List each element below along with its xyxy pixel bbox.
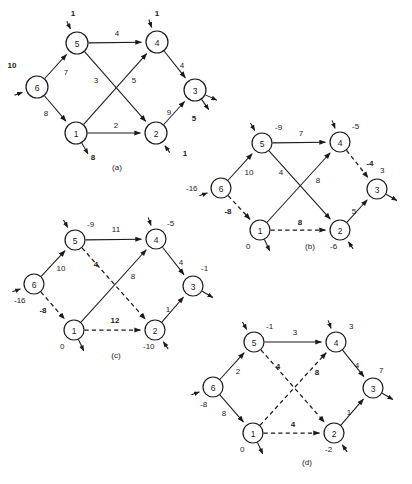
node-3[interactable]: 3 (363, 378, 383, 398)
node-value-6: -8 (200, 400, 208, 409)
edge-5-to-4 (88, 42, 141, 43)
external-flow-value-node-6: 10 (8, 61, 17, 70)
node-label-2: 2 (153, 326, 158, 336)
edge-label-6-5: 7 (64, 68, 69, 77)
edge-label-6-5: 10 (57, 264, 66, 273)
node-5[interactable]: 5 (244, 332, 264, 352)
external-out-flow-node-3 (386, 194, 397, 200)
node-label-5: 5 (75, 39, 80, 49)
node-label-6: 6 (211, 383, 216, 393)
node-2[interactable]: 2 (330, 220, 350, 240)
node-5[interactable]: 5 (66, 32, 88, 54)
edge-label-5-4: 11 (112, 225, 121, 234)
node-value-1: 0 (240, 445, 245, 454)
external-in-flow-node-6 (199, 193, 207, 196)
edge-label-1-2: 8 (298, 218, 303, 227)
node-label-4: 4 (155, 38, 160, 48)
edge-1-to-4 (84, 54, 147, 125)
edge-label-6-1: 8 (44, 109, 49, 118)
external-out-flow-node-3 (202, 99, 209, 109)
panel-caption-d: (d) (302, 458, 312, 467)
network-flow-figure: 478354921110581546312(a)710-848-45854631… (0, 0, 412, 484)
node-label-5: 5 (260, 139, 265, 149)
node-label-3: 3 (375, 185, 380, 195)
external-in-flow-node-2 (165, 146, 170, 153)
node-label-2: 2 (332, 429, 337, 439)
node-value-4: -5 (167, 219, 175, 228)
node-4[interactable]: 4 (146, 229, 166, 249)
node-3[interactable]: 3 (367, 179, 387, 199)
edge-5-to-2 (269, 151, 330, 219)
node-label-1: 1 (258, 226, 263, 236)
node-2[interactable]: 2 (145, 122, 167, 144)
external-in-flow-node-6 (191, 392, 199, 395)
edge-label-1-4: 8 (131, 272, 136, 281)
figure-canvas: 478354921110581546312(a)710-848-45854631… (0, 0, 412, 484)
node-6[interactable]: 6 (203, 377, 223, 397)
node-label-6: 6 (219, 184, 224, 194)
external-out-flow-node-3 (382, 393, 393, 399)
edge-5-to-2 (85, 52, 146, 122)
node-2[interactable]: 2 (324, 423, 344, 443)
node-label-3: 3 (371, 384, 376, 394)
node-value-6: -16 (14, 296, 26, 305)
node-2[interactable]: 2 (145, 320, 165, 340)
edge-label-1-2: 4 (291, 420, 296, 429)
edge-6-to-5 (220, 353, 244, 380)
edge-label-6-1: 8 (222, 409, 227, 418)
edge-label-5-2: 4 (279, 168, 284, 177)
edge-label-6-5: 2 (236, 367, 241, 376)
node-value-2: -10 (143, 342, 155, 351)
edge-4-to-3 (343, 350, 364, 377)
external-in-flow-node-5 (64, 220, 68, 227)
node-value-4: -5 (352, 122, 360, 131)
node-4[interactable]: 4 (146, 31, 168, 53)
node-value-3: 3 (380, 166, 385, 175)
node-label-6: 6 (32, 280, 37, 290)
node-label-2: 2 (338, 226, 343, 236)
external-in-flow-node-6 (14, 92, 22, 95)
node-1[interactable]: 1 (65, 122, 87, 144)
node-1[interactable]: 1 (250, 220, 270, 240)
edge-label-6-1: -8 (39, 306, 47, 315)
node-1[interactable]: 1 (243, 423, 263, 443)
edge-label-4-3: 4 (355, 361, 360, 370)
node-5[interactable]: 5 (252, 133, 272, 153)
external-in-flow-node-5 (243, 322, 247, 329)
external-out-flow-node-1 (82, 143, 88, 154)
node-label-2: 2 (154, 129, 159, 139)
edge-label-2-3: 5 (352, 207, 357, 216)
node-value-5: -1 (266, 322, 274, 331)
panel-b: 710-848-458546312-9-5-1630-6(b) (186, 120, 397, 250)
edge-1-to-4 (260, 353, 326, 426)
edge-label-4-3: 4 (180, 61, 185, 70)
external-out-flow-node-1 (78, 340, 83, 351)
external-in-flow-node-2 (342, 445, 347, 452)
external-out-flow-node-3 (202, 291, 213, 297)
external-in-flow-node-5 (251, 123, 255, 130)
node-5[interactable]: 5 (65, 230, 85, 250)
node-6[interactable]: 6 (211, 178, 231, 198)
node-6[interactable]: 6 (24, 274, 44, 294)
external-in-flow-node-4 (332, 120, 335, 128)
edge-label-1-4: 8 (315, 368, 320, 377)
node-4[interactable]: 4 (330, 132, 350, 152)
node-value-5: -9 (275, 123, 283, 132)
node-label-4: 4 (338, 138, 343, 148)
node-label-5: 5 (73, 236, 78, 246)
edge-label-5-4: 7 (299, 129, 304, 138)
node-6[interactable]: 6 (26, 76, 48, 98)
node-3[interactable]: 3 (183, 276, 203, 296)
node-value-4: 3 (349, 322, 354, 331)
external-in-flow-node-5 (67, 21, 71, 29)
node-3[interactable]: 3 (184, 79, 206, 101)
edge-label-5-4: 3 (293, 328, 298, 337)
external-out-flow-node-3 (205, 95, 216, 100)
external-flow-value-node-2: 1 (183, 149, 188, 158)
node-4[interactable]: 4 (326, 332, 346, 352)
node-value-2: -6 (330, 242, 338, 251)
node-value-3: -1 (201, 264, 209, 273)
node-label-5: 5 (252, 338, 257, 348)
edge-label-1-4: 5 (132, 76, 137, 85)
node-1[interactable]: 1 (64, 320, 84, 340)
